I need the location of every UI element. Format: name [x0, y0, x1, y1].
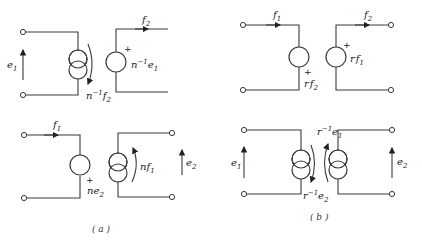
terminal: [241, 127, 246, 132]
wire: [27, 135, 80, 155]
label-r-inv-e1: r−1e1: [317, 125, 343, 140]
label-f2: f2: [363, 9, 373, 23]
terminal: [21, 195, 26, 200]
voltage-source-icon: [289, 47, 309, 67]
caption-b: ( b ): [310, 212, 329, 222]
terminal: [388, 22, 393, 27]
label-e1: e1: [7, 59, 17, 73]
wire: [338, 130, 389, 151]
label-n-inv-e1: n−1e1: [131, 58, 158, 73]
panel-b-bottom-circuit: e1 r−1e2 r−1e1 e2: [231, 125, 408, 204]
current-source-icon: [109, 153, 127, 182]
terminal: [20, 92, 25, 97]
current-direction-arrow-icon: [325, 144, 329, 182]
current-direction-arrow-icon: [88, 44, 92, 84]
terminal: [21, 132, 26, 137]
wire: [26, 77, 78, 95]
label-r-inv-e2: r−1e2: [303, 189, 329, 204]
current-direction-arrow-icon: [311, 145, 315, 182]
terminal: [20, 29, 25, 34]
current-source-icon: [69, 50, 87, 79]
wire: [116, 72, 168, 92]
current-source-icon: [292, 150, 310, 179]
terminal: [389, 191, 394, 196]
label-ne2: ne2: [87, 185, 104, 199]
label-e2: e2: [186, 157, 197, 171]
label-f1: f1: [52, 119, 61, 133]
label-e2: e2: [397, 156, 408, 170]
polarity-plus: +: [304, 67, 312, 77]
wire: [118, 178, 170, 197]
terminal: [388, 87, 393, 92]
panel-b-top-circuit: f1 + rf2 f2 + rf1: [240, 9, 393, 93]
panel-a-top-circuit: e1 n−1f2 f2 + n−1e1: [7, 14, 168, 104]
current-source-icon: [329, 150, 347, 179]
label-n-inv-f2: n−1f2: [86, 89, 111, 104]
wire: [27, 176, 80, 198]
terminal: [240, 22, 245, 27]
label-nf1: nf1: [140, 161, 155, 175]
terminal: [389, 127, 394, 132]
circuit-figure: e1 n−1f2 f2 + n−1e1 f1 + ne2: [0, 0, 422, 242]
polarity-plus: +: [124, 44, 132, 54]
label-f1: f1: [272, 9, 281, 23]
wire: [246, 25, 299, 47]
caption-a: ( a ): [92, 224, 111, 234]
polarity-plus: +: [86, 175, 94, 185]
voltage-source-icon: [70, 155, 90, 175]
label-rf1: rf1: [350, 53, 364, 67]
current-direction-arrow-icon: [132, 148, 136, 182]
terminal: [241, 191, 246, 196]
wire: [336, 67, 388, 90]
polarity-plus: +: [343, 40, 351, 50]
voltage-source-icon: [326, 47, 346, 67]
wire: [118, 133, 170, 157]
wire: [247, 173, 301, 194]
label-rf2: rf2: [304, 78, 318, 92]
terminal: [240, 87, 245, 92]
voltage-source-icon: [106, 52, 126, 72]
label-e1: e1: [231, 157, 241, 171]
wire: [338, 173, 389, 194]
wire: [247, 130, 301, 151]
terminal: [169, 194, 174, 199]
terminal: [169, 130, 174, 135]
panel-a-bottom-circuit: f1 + ne2 nf1 e2: [21, 119, 197, 201]
label-f2: f2: [141, 14, 151, 28]
wire: [246, 67, 299, 90]
wire: [26, 32, 78, 52]
